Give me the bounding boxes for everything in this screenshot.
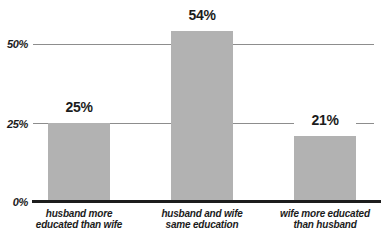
- bar-group-wife-more-educated: 21%: [294, 0, 356, 202]
- bar-value-label: 25%: [48, 99, 110, 115]
- y-tick-label-0: 0%: [0, 196, 28, 208]
- bar-husband-more-educated: [48, 123, 110, 202]
- y-tick-label-25: 25%: [0, 118, 28, 130]
- bar-value-label: 54%: [171, 7, 233, 23]
- bar-group-same-education: 54%: [171, 0, 233, 202]
- bar-value-label: 21%: [294, 112, 356, 128]
- x-axis-line: [32, 200, 381, 203]
- bar-chart: 50% 25% 0% 25% 54% 21% husband more educ…: [0, 0, 385, 245]
- x-category-label-wife-more-educated: wife more educated than husband: [255, 208, 385, 230]
- bar-group-husband-more-educated: 25%: [48, 0, 110, 202]
- bar-same-education: [171, 31, 233, 202]
- x-category-label-husband-more-educated: husband more educated than wife: [9, 208, 149, 230]
- bar-wife-more-educated: [294, 136, 356, 202]
- x-category-label-same-education: husband and wife same education: [132, 208, 272, 230]
- y-tick-label-50: 50%: [0, 38, 28, 50]
